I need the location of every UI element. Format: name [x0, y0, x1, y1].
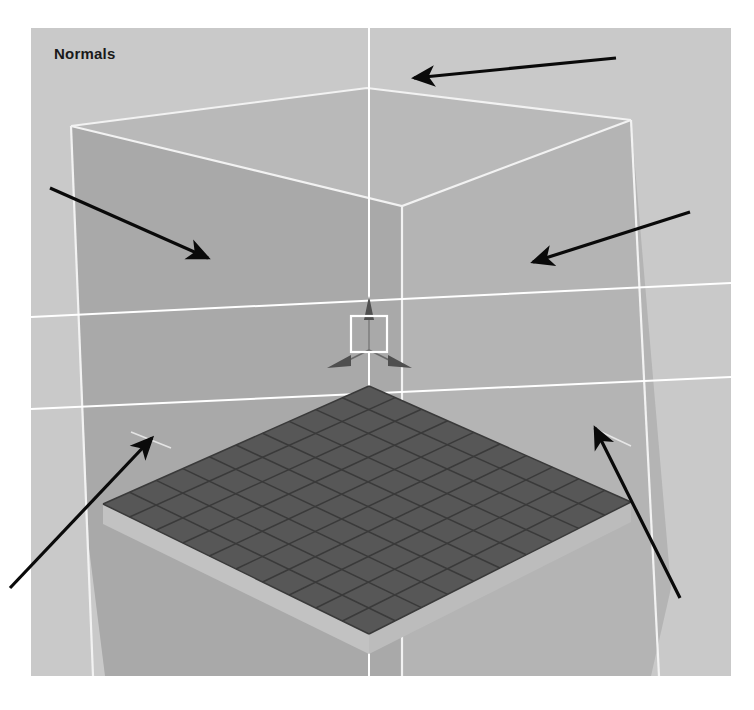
scene-render [31, 28, 731, 676]
viewport-3d[interactable] [31, 28, 731, 676]
viewport-label: Normals [54, 45, 115, 62]
figure-canvas: Normals [0, 0, 754, 710]
